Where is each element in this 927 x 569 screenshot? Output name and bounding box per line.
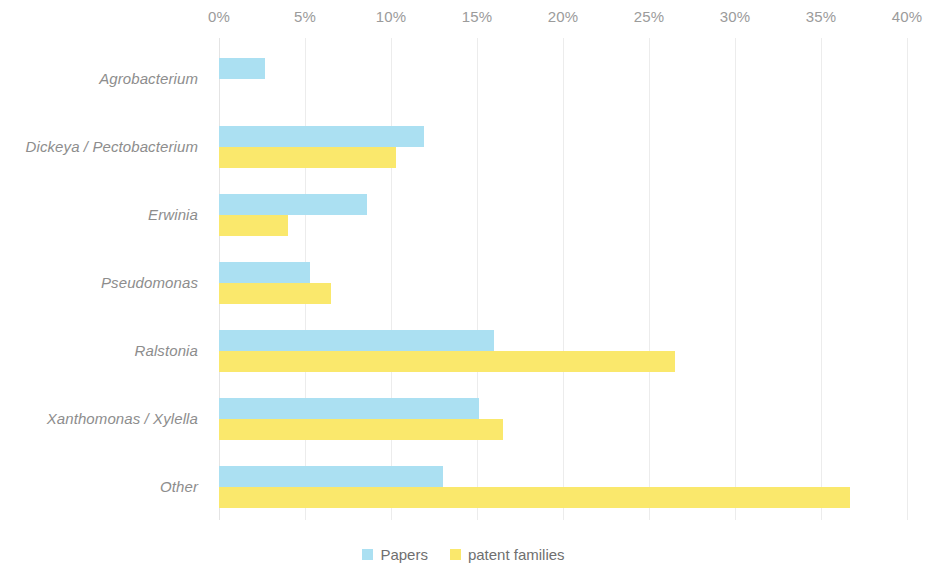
- bar-papers: [219, 262, 310, 283]
- horizontal-bar-chart: 0%5%10%15%20%25%30%35%40% AgrobacteriumD…: [0, 0, 927, 569]
- bar-patent-families: [219, 419, 503, 440]
- category-label: Pseudomonas: [101, 274, 198, 291]
- bar-patent-families: [219, 487, 850, 508]
- bar-papers: [219, 330, 494, 351]
- bar-group: [219, 262, 907, 304]
- category-label: Other: [160, 478, 198, 495]
- legend-label: patent families: [468, 546, 565, 563]
- legend-swatch-icon: [362, 549, 373, 560]
- bar-group: [219, 330, 907, 372]
- category-label: Agrobacterium: [99, 70, 198, 87]
- bar-papers: [219, 58, 265, 79]
- gridline: [907, 38, 908, 520]
- category-label: Dickeya / Pectobacterium: [26, 138, 198, 155]
- legend-item[interactable]: patent families: [450, 546, 565, 563]
- category-label: Xanthomonas / Xylella: [47, 410, 198, 427]
- plot-area: [219, 38, 907, 520]
- x-axis-tick-label: 20%: [548, 8, 579, 25]
- bar-group: [219, 58, 907, 100]
- bar-papers: [219, 466, 443, 487]
- x-axis-tick-label: 0%: [208, 8, 230, 25]
- category-label: Erwinia: [148, 206, 198, 223]
- x-axis-tick-label: 30%: [720, 8, 751, 25]
- x-axis-tick-label: 40%: [892, 8, 923, 25]
- bar-papers: [219, 398, 479, 419]
- legend-swatch-icon: [450, 549, 461, 560]
- bar-patent-families: [219, 283, 331, 304]
- bar-group: [219, 194, 907, 236]
- x-axis-tick-label: 35%: [806, 8, 837, 25]
- x-axis-tick-labels: 0%5%10%15%20%25%30%35%40%: [0, 8, 927, 30]
- legend-label: Papers: [380, 546, 428, 563]
- bar-patent-families: [219, 351, 675, 372]
- bar-patent-families: [219, 147, 396, 168]
- bar-group: [219, 398, 907, 440]
- bar-papers: [219, 194, 367, 215]
- bar-papers: [219, 126, 424, 147]
- bar-patent-families: [219, 215, 288, 236]
- x-axis-tick-label: 15%: [462, 8, 493, 25]
- category-label: Ralstonia: [135, 342, 198, 359]
- chart-legend: Paperspatent families: [0, 546, 927, 563]
- x-axis-tick-label: 5%: [294, 8, 316, 25]
- legend-item[interactable]: Papers: [362, 546, 428, 563]
- x-axis-tick-label: 10%: [376, 8, 407, 25]
- bar-group: [219, 126, 907, 168]
- y-axis-category-labels: AgrobacteriumDickeya / PectobacteriumErw…: [0, 38, 210, 520]
- bar-group: [219, 466, 907, 508]
- x-axis-tick-label: 25%: [634, 8, 665, 25]
